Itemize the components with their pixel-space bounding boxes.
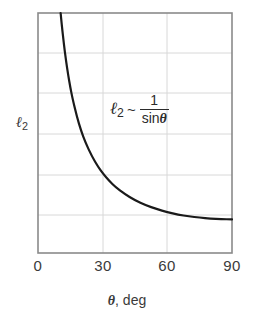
x-tick-label-0: 0 [18, 257, 58, 274]
x-tick-label-60: 60 [147, 257, 187, 274]
annotation-numerator: 1 [147, 93, 161, 109]
x-axis-title: θ, deg [0, 292, 254, 309]
y-axis-title: ℓ2 [8, 113, 36, 132]
annotation-fraction: 1 sinθ [140, 93, 169, 126]
annotation-relation: ~ [127, 101, 136, 118]
annotation-lhs-sub: 2 [117, 106, 124, 120]
annotation-denominator: sinθ [140, 110, 169, 127]
annotation-denominator-fn: sin [142, 110, 160, 126]
curve-formula-annotation: ℓ2 ~ 1 sinθ [110, 93, 169, 126]
y-axis-title-sub: 2 [22, 120, 28, 132]
figure-container: ℓ2 0 30 60 90 θ, deg ℓ2 ~ 1 sinθ [0, 0, 254, 330]
annotation-denominator-var: θ [160, 111, 167, 126]
x-tick-label-30: 30 [83, 257, 123, 274]
x-tick-label-90: 90 [212, 257, 252, 274]
chart-canvas [0, 0, 254, 330]
x-axis-title-unit: , deg [115, 292, 146, 308]
annotation-lhs: ℓ2 [110, 99, 124, 120]
x-axis-title-symbol: θ [108, 293, 115, 308]
